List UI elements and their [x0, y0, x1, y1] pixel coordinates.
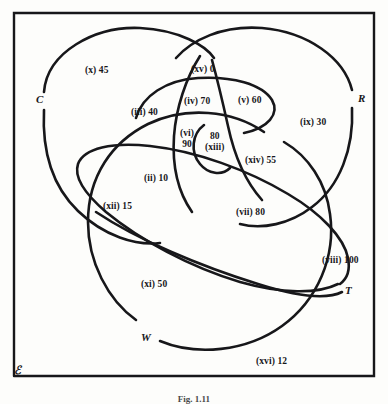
figure-caption: Fig. 1.11: [0, 394, 388, 404]
set-label-C: C: [36, 93, 43, 105]
set-curve-C: [44, 28, 214, 92]
region-label-xiii: 80 (xiii): [205, 131, 225, 153]
region-label-xvi: (xvi) 12: [256, 356, 287, 367]
region-label-xiv: (xiv) 55: [245, 155, 276, 166]
region-label-vi-roman: (vi): [180, 128, 194, 139]
set-label-R: R: [358, 92, 365, 104]
region-label-vii: (vii) 80: [236, 207, 265, 218]
set-label-W: W: [141, 331, 151, 343]
region-label-iv: (iv) 70: [184, 96, 210, 107]
region-label-xi: (xi) 50: [141, 279, 167, 290]
region-label-xiii-roman: (xiii): [205, 142, 225, 153]
region-label-xiii-value: 80: [205, 131, 225, 142]
region-label-vi: (vi) 90: [180, 128, 194, 150]
region-label-ii: (ii) 10: [144, 173, 168, 184]
region-label-viii: (viii) 100: [322, 255, 359, 266]
region-label-xii: (xii) 15: [103, 201, 132, 212]
set-curve-R: [176, 28, 352, 90]
set-curve-C-lower: [44, 110, 160, 244]
region-label-x: (x) 45: [85, 65, 109, 76]
universal-set-symbol: ℰ: [14, 363, 21, 377]
region-label-v: (v) 60: [238, 95, 262, 106]
set-curve-lower-sweep: [96, 212, 342, 296]
region-label-vi-value: 90: [180, 139, 194, 150]
region-label-iii: (iii) 40: [131, 107, 158, 118]
region-label-ix: (ix) 30: [300, 117, 326, 128]
set-label-T: T: [345, 284, 352, 296]
region-label-xv: (xv) 0: [191, 64, 215, 75]
